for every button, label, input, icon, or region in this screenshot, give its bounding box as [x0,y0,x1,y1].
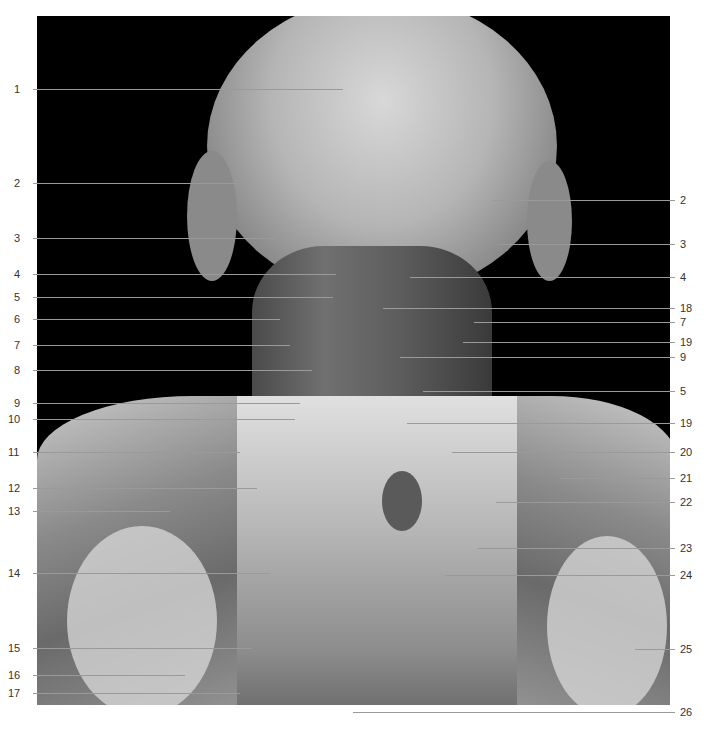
label-number: 9 [680,351,686,363]
label-number: 17 [8,687,20,699]
leader-line [33,89,343,90]
label-number: 13 [8,505,20,517]
dissection-photo [37,16,670,705]
label-number: 7 [14,339,20,351]
label-number: 5 [14,291,20,303]
label-number: 2 [680,194,686,206]
label-number: 3 [14,232,20,244]
leader-line [496,502,675,503]
label-number: 4 [14,268,20,280]
label-number: 25 [680,643,692,655]
label-number: 16 [8,669,20,681]
scapula-right [547,536,667,705]
scapula-left [67,526,217,705]
leader-line [33,274,336,275]
label-number: 21 [680,472,692,484]
leader-line [33,573,270,574]
label-number: 19 [680,336,692,348]
anatomy-figure: 1234567891011121314151617234187199519202… [0,0,713,751]
upper-back [237,396,517,705]
leader-line [400,357,675,358]
leader-line [33,183,252,184]
leader-line [33,419,295,420]
leader-line [33,238,278,239]
label-number: 10 [8,413,20,425]
left-ear [187,151,237,281]
spinous-process [382,471,422,531]
leader-line [33,345,290,346]
right-ear [527,161,572,281]
leader-line [33,297,333,298]
leader-line [33,452,240,453]
label-number: 26 [680,706,692,718]
leader-line [478,548,675,549]
leader-line [353,712,675,713]
leader-line [497,244,675,245]
label-number: 18 [680,302,692,314]
leader-line [33,403,300,404]
leader-line [383,308,675,309]
label-number: 15 [8,642,20,654]
label-number: 8 [14,364,20,376]
leader-line [33,675,185,676]
leader-line [463,342,675,343]
label-number: 14 [8,567,20,579]
label-number: 23 [680,542,692,554]
label-number: 11 [8,446,19,458]
leader-line [474,322,675,323]
label-number: 22 [680,496,692,508]
leader-line [407,423,675,424]
label-number: 1 [14,83,20,95]
leader-line [410,277,675,278]
leader-line [33,370,312,371]
leader-line [33,488,257,489]
label-number: 19 [680,417,692,429]
leader-line [445,575,675,576]
leader-line [493,200,675,201]
label-number: 6 [14,313,20,325]
label-number: 24 [680,569,692,581]
label-number: 5 [680,385,686,397]
label-number: 9 [14,397,20,409]
leader-line [452,452,675,453]
leader-line [33,511,170,512]
label-number: 2 [14,177,20,189]
label-number: 7 [680,316,686,328]
label-number: 4 [680,271,686,283]
leader-line [560,478,675,479]
leader-line [33,693,240,694]
leader-line [33,648,252,649]
leader-line [423,391,675,392]
label-number: 20 [680,446,692,458]
label-number: 3 [680,238,686,250]
label-number: 12 [8,482,20,494]
leader-line [33,319,280,320]
leader-line [635,649,675,650]
